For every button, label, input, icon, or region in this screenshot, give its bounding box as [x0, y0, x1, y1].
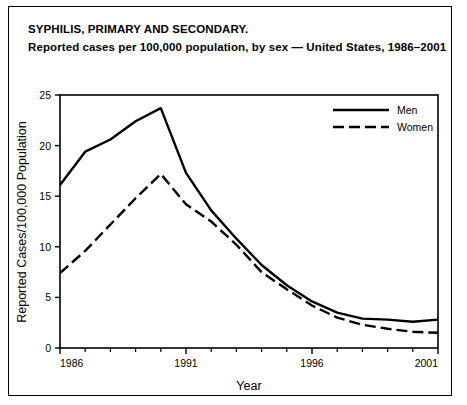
y-tick-label: 5: [45, 291, 51, 303]
y-tick-label: 0: [45, 342, 51, 354]
legend-label-men: Men: [397, 104, 418, 116]
x-axis-title: Year: [236, 379, 261, 393]
y-tick-label: 15: [39, 190, 51, 202]
plot-frame: [60, 95, 438, 348]
y-axis-title: Reported Cases/100,000 Population: [15, 121, 29, 323]
chart-plot-area: 0510152025 1986199119962001 MenWomen Yea…: [0, 0, 467, 405]
y-axis-ticks: 0510152025: [39, 89, 60, 354]
data-series-group: [60, 108, 438, 333]
x-axis-ticks: 1986199119962001: [60, 348, 438, 369]
x-tick-label: 1986: [60, 357, 84, 369]
chart-legend: MenWomen: [333, 104, 433, 133]
legend-label-women: Women: [397, 121, 433, 133]
y-tick-label: 25: [39, 89, 51, 101]
y-tick-label: 20: [39, 140, 51, 152]
y-tick-label: 10: [39, 241, 51, 253]
x-tick-label: 2001: [415, 357, 439, 369]
chart-page: SYPHILIS, PRIMARY AND SECONDARY. Reporte…: [0, 0, 467, 405]
series-line-men: [60, 108, 438, 322]
line-chart-svg: 0510152025 1986199119962001 MenWomen Yea…: [0, 0, 467, 405]
x-tick-label: 1991: [174, 357, 198, 369]
x-tick-label: 1996: [300, 357, 324, 369]
